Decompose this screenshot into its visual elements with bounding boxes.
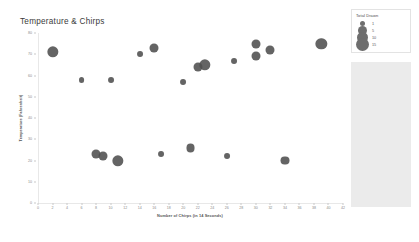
- x-tick-label: 30: [254, 206, 258, 210]
- x-tick-mark: [139, 203, 140, 205]
- x-tick-mark: [110, 203, 111, 205]
- x-tick-mark: [313, 203, 314, 205]
- y-tick-mark: [34, 33, 36, 34]
- data-point[interactable]: [158, 151, 164, 157]
- x-tick-mark: [183, 203, 184, 205]
- data-point[interactable]: [231, 58, 237, 64]
- y-tick-mark: [34, 203, 36, 204]
- data-point[interactable]: [280, 156, 289, 165]
- x-tick-mark: [38, 203, 39, 205]
- x-tick-label: 40: [326, 206, 330, 210]
- x-tick-mark: [81, 203, 82, 205]
- y-axis-title: Temperature (Fahrenheit): [19, 95, 23, 142]
- x-tick-label: 4: [66, 206, 68, 210]
- data-point[interactable]: [251, 52, 260, 61]
- x-tick-label: 6: [81, 206, 83, 210]
- legend-swatch-circle-icon: [356, 38, 369, 51]
- x-tick-mark: [154, 203, 155, 205]
- data-point[interactable]: [186, 143, 195, 152]
- x-tick-label: 12: [123, 206, 127, 210]
- y-tick-label: 60: [28, 74, 32, 78]
- y-tick-mark: [34, 181, 36, 182]
- y-tick-mark: [34, 54, 36, 55]
- y-tick-mark: [34, 96, 36, 97]
- y-tick-mark: [34, 75, 36, 76]
- data-point[interactable]: [150, 43, 159, 52]
- y-tick-label: 30: [28, 137, 32, 141]
- x-tick-mark: [197, 203, 198, 205]
- legend-entry-label: 10: [372, 36, 376, 40]
- data-point[interactable]: [251, 39, 260, 48]
- legend-entries: 151015: [356, 20, 406, 48]
- y-axis-ticks: 01020304050607080: [0, 33, 36, 203]
- legend-background-panel: [351, 62, 411, 207]
- x-tick-mark: [212, 203, 213, 205]
- visualization-root: Temperature & Chirps 01020304050607080 0…: [0, 0, 419, 242]
- y-tick-label: 10: [28, 180, 32, 184]
- y-tick-label: 50: [28, 95, 32, 99]
- data-point[interactable]: [79, 77, 85, 83]
- x-tick-mark: [270, 203, 271, 205]
- x-tick-label: 42: [341, 206, 345, 210]
- y-tick-label: 40: [28, 116, 32, 120]
- x-tick-mark: [226, 203, 227, 205]
- x-tick-label: 2: [52, 206, 54, 210]
- plot-area[interactable]: [38, 33, 343, 203]
- x-tick-label: 28: [239, 206, 243, 210]
- y-tick-mark: [34, 139, 36, 140]
- y-tick-label: 80: [28, 31, 32, 35]
- y-axis-line: [38, 33, 39, 203]
- legend-entry-label: 15: [372, 43, 376, 47]
- x-axis-title: Number of Chirps (in 14 Seconds): [157, 213, 223, 218]
- x-tick-mark: [67, 203, 68, 205]
- data-point[interactable]: [266, 46, 275, 55]
- x-tick-label: 8: [95, 206, 97, 210]
- x-tick-label: 22: [196, 206, 200, 210]
- y-tick-label: 70: [28, 52, 32, 56]
- x-tick-label: 18: [167, 206, 171, 210]
- x-tick-mark: [255, 203, 256, 205]
- x-tick-label: 34: [283, 206, 287, 210]
- data-point[interactable]: [108, 77, 114, 83]
- data-point[interactable]: [99, 152, 108, 161]
- y-tick-label: 20: [28, 159, 32, 163]
- legend-title: Total Drawn: [356, 13, 406, 18]
- x-tick-label: 36: [297, 206, 301, 210]
- y-tick-mark: [34, 160, 36, 161]
- data-point[interactable]: [137, 51, 143, 57]
- legend[interactable]: Total Drawn 151015: [351, 9, 411, 53]
- y-tick-mark: [34, 118, 36, 119]
- y-tick-label: 0: [30, 201, 32, 205]
- x-tick-label: 20: [181, 206, 185, 210]
- legend-entry-label: 1: [372, 22, 374, 26]
- x-tick-label: 0: [37, 206, 39, 210]
- x-tick-label: 16: [152, 206, 156, 210]
- page-title: Temperature & Chirps: [20, 17, 105, 26]
- legend-entry-label: 5: [372, 29, 374, 33]
- x-tick-label: 26: [225, 206, 229, 210]
- data-point[interactable]: [180, 79, 186, 85]
- legend-entry[interactable]: 15: [356, 41, 406, 48]
- legend-swatch-box: [356, 38, 369, 51]
- x-tick-mark: [168, 203, 169, 205]
- x-tick-mark: [284, 203, 285, 205]
- x-tick-label: 10: [109, 206, 113, 210]
- x-tick-mark: [125, 203, 126, 205]
- x-tick-mark: [241, 203, 242, 205]
- x-tick-label: 38: [312, 206, 316, 210]
- x-tick-label: 32: [268, 206, 272, 210]
- x-tick-mark: [343, 203, 344, 205]
- x-tick-mark: [328, 203, 329, 205]
- x-tick-label: 24: [210, 206, 214, 210]
- x-tick-mark: [96, 203, 97, 205]
- plot-canvas: [38, 33, 343, 203]
- x-tick-label: 14: [138, 206, 142, 210]
- x-tick-mark: [52, 203, 53, 205]
- x-tick-mark: [299, 203, 300, 205]
- data-point[interactable]: [224, 153, 230, 159]
